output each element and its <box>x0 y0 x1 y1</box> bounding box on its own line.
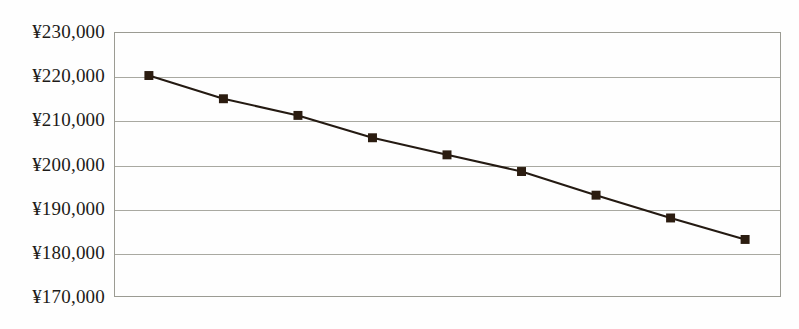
y-axis-tick-label: ¥230,000 <box>0 21 105 43</box>
series-markers <box>144 71 749 244</box>
data-point-marker <box>144 71 153 80</box>
y-axis-tick-label: ¥210,000 <box>0 109 105 131</box>
data-point-marker <box>293 111 302 120</box>
data-point-marker <box>443 150 452 159</box>
data-point-marker <box>368 133 377 142</box>
y-axis-tick-label: ¥220,000 <box>0 65 105 87</box>
y-axis-tick-label: ¥170,000 <box>0 286 105 308</box>
plot-area <box>114 32 781 297</box>
y-axis-tick-label: ¥190,000 <box>0 198 105 220</box>
series-layer <box>115 33 780 296</box>
data-point-marker <box>741 235 750 244</box>
data-point-marker <box>592 191 601 200</box>
data-point-marker <box>517 167 526 176</box>
y-axis-tick-label: ¥180,000 <box>0 242 105 264</box>
line-chart: ¥230,000¥220,000¥210,000¥200,000¥190,000… <box>0 0 799 329</box>
data-point-marker <box>219 94 228 103</box>
data-point-marker <box>666 214 675 223</box>
y-axis-tick-label: ¥200,000 <box>0 154 105 176</box>
